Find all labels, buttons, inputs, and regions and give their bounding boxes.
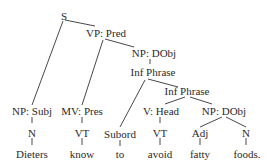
- word-fatty: fatty: [190, 148, 210, 160]
- node-subord: Subord: [104, 128, 136, 140]
- node-mv-pres: MV: Pres: [61, 105, 103, 117]
- node-inf-phrase-2: Inf Phrase: [165, 85, 210, 97]
- word-know: know: [70, 148, 94, 160]
- node-np-dobj-1: NP: DObj: [132, 47, 176, 59]
- node-vt-1: VT: [75, 127, 90, 139]
- node-np-dobj-2: NP: DObj: [202, 105, 246, 117]
- word-foods: foods.: [233, 148, 260, 160]
- word-dieters: Dieters: [16, 148, 48, 160]
- word-to: to: [116, 148, 125, 160]
- node-vt-2: VT: [153, 127, 168, 139]
- word-avoid: avoid: [148, 148, 172, 160]
- node-vp-pred: VP: Pred: [86, 27, 126, 39]
- node-s: S: [61, 10, 67, 22]
- node-n-2: N: [242, 127, 250, 139]
- tree-branches: [0, 0, 267, 168]
- node-np-subj: NP: Subj: [12, 105, 52, 117]
- syntax-tree-diagram: S VP: Pred NP: DObj Inf Phrase Inf Phras…: [0, 0, 267, 168]
- node-v-head: V: Head: [143, 105, 179, 117]
- node-inf-phrase-1: Inf Phrase: [131, 66, 176, 78]
- node-adj: Adj: [192, 127, 209, 139]
- node-n-1: N: [28, 127, 36, 139]
